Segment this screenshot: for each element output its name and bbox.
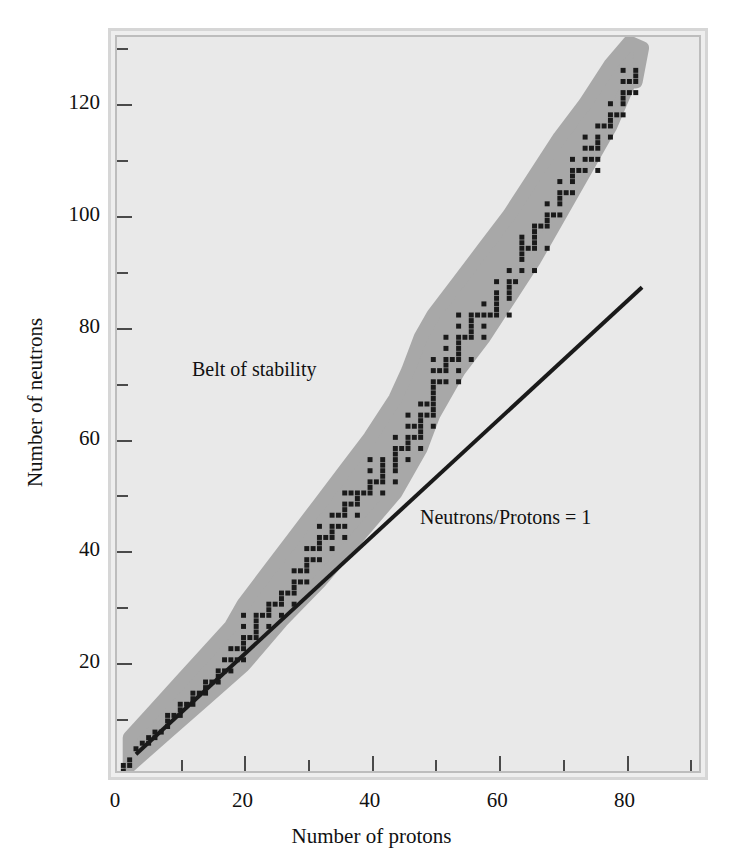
nuclide-dot xyxy=(203,691,208,696)
nuclide-dot xyxy=(595,123,600,128)
nuclide-dot xyxy=(583,135,588,140)
x-axis-tick xyxy=(244,756,246,771)
nuclide-dot xyxy=(488,313,493,318)
nuclide-dot xyxy=(228,646,233,651)
nuclide-dot xyxy=(494,313,499,318)
nuclide-dot xyxy=(557,201,562,206)
nuclide-dot xyxy=(570,168,575,173)
nuclide-dot xyxy=(431,357,436,362)
nuclide-dot xyxy=(190,691,195,696)
nuclide-dot xyxy=(557,190,562,195)
nuclide-dot xyxy=(330,529,335,534)
nuclide-dot xyxy=(633,79,638,84)
nuclide-dot xyxy=(608,118,613,123)
nuclide-dot xyxy=(589,157,594,162)
nuclide-dot xyxy=(481,324,486,329)
nuclide-dot xyxy=(545,246,550,251)
nuclide-dot xyxy=(462,335,467,340)
nuclide-dot xyxy=(368,490,373,495)
nuclide-dot xyxy=(399,446,404,451)
nuclide-dot xyxy=(507,313,512,318)
nuclide-dot xyxy=(184,702,189,707)
y-axis-tick xyxy=(117,495,128,497)
nuclide-dot xyxy=(519,246,524,251)
nuclide-dot xyxy=(456,335,461,340)
x-tick-label: 20 xyxy=(232,790,253,811)
nuclide-dot xyxy=(551,212,556,217)
nuclide-dot xyxy=(209,680,214,685)
nuclide-dot xyxy=(431,385,436,390)
nuclide-dot xyxy=(330,546,335,551)
nuclide-dot xyxy=(456,340,461,345)
nuclide-dot xyxy=(127,763,132,768)
nuclide-dot xyxy=(152,730,157,735)
nuclide-dot xyxy=(456,368,461,373)
nuclide-dot xyxy=(393,435,398,440)
nuclide-dot xyxy=(507,268,512,273)
nuclide-dot xyxy=(583,146,588,151)
x-axis-tick xyxy=(181,760,183,771)
nuclide-dot xyxy=(621,79,626,84)
x-axis-title: Number of protons xyxy=(0,824,743,849)
nuclide-dot xyxy=(431,407,436,412)
nuclide-dot xyxy=(323,535,328,540)
belt-of-stability-band xyxy=(130,43,642,766)
nuclide-dot xyxy=(406,457,411,462)
nuclide-dot xyxy=(456,379,461,384)
nuclide-dot xyxy=(608,112,613,117)
nuclide-dot xyxy=(279,602,284,607)
nuclide-dot xyxy=(595,157,600,162)
y-axis-tick xyxy=(117,440,132,442)
nuclide-dot xyxy=(298,579,303,584)
plot-canvas xyxy=(117,37,699,771)
nuclide-dot xyxy=(330,513,335,518)
nuclide-dot xyxy=(228,657,233,662)
nuclide-dot xyxy=(418,446,423,451)
nuclide-dot xyxy=(627,79,632,84)
y-tick-label: 120 xyxy=(69,92,101,113)
nuclide-dot xyxy=(456,357,461,362)
nuclide-dot xyxy=(368,479,373,484)
nuclide-dot xyxy=(406,435,411,440)
nuclide-dot xyxy=(355,502,360,507)
nuclide-dot xyxy=(342,513,347,518)
plot-area xyxy=(115,35,701,773)
y-axis-tick xyxy=(117,719,128,721)
y-axis-tick xyxy=(117,272,128,274)
nuclide-dot xyxy=(203,685,208,690)
y-tick-label: 80 xyxy=(79,316,100,337)
nuclide-dot xyxy=(380,479,385,484)
y-axis-tick xyxy=(117,160,128,162)
nuclide-dot xyxy=(564,190,569,195)
nuclide-dot xyxy=(437,368,442,373)
nuclide-dot xyxy=(538,224,543,229)
nuclide-dot xyxy=(342,507,347,512)
nuclide-dot xyxy=(406,424,411,429)
nuclide-dot xyxy=(311,546,316,551)
nuclide-dot xyxy=(418,429,423,434)
nuclide-dot xyxy=(266,602,271,607)
y-axis-tick xyxy=(117,384,128,386)
nuclide-dot xyxy=(336,513,341,518)
nuclide-dot xyxy=(355,496,360,501)
nuclide-dot xyxy=(317,541,322,546)
nuclide-dot xyxy=(355,513,360,518)
nuclide-dot xyxy=(342,490,347,495)
nuclide-dot xyxy=(431,402,436,407)
nuclide-dot xyxy=(361,490,366,495)
nuclide-dot xyxy=(304,563,309,568)
nuclide-dot xyxy=(292,568,297,573)
x-tick-label: 40 xyxy=(359,790,380,811)
nuclide-dot xyxy=(431,396,436,401)
nuclide-dot xyxy=(342,502,347,507)
y-axis-tick xyxy=(117,216,132,218)
nuclide-dot xyxy=(349,490,354,495)
nuclide-dot xyxy=(545,224,550,229)
nuclide-dot xyxy=(406,440,411,445)
y-axis-tick xyxy=(117,663,132,665)
nuclide-dot xyxy=(481,335,486,340)
nuclide-dot xyxy=(317,557,322,562)
nuclide-dot xyxy=(608,135,613,140)
nuclide-dot xyxy=(159,730,164,735)
nuclide-dot xyxy=(424,413,429,418)
